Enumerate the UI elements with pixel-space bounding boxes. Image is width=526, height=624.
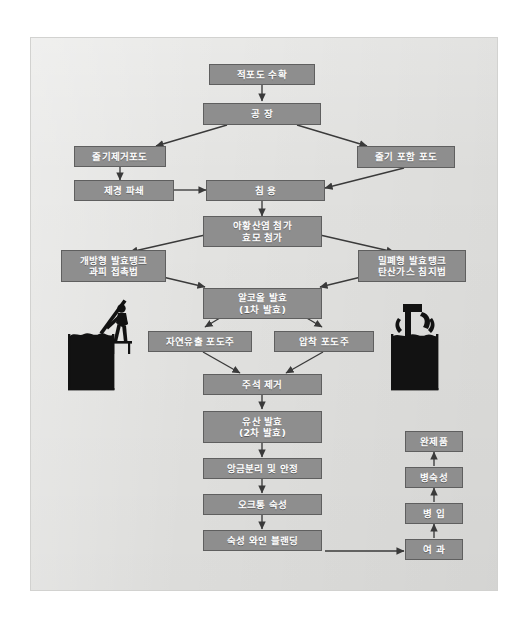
node-sulfite-yeast-addition-line-2: 효모 첨가 bbox=[242, 232, 282, 244]
node-tartrate-removal[interactable]: 주석 제거 bbox=[203, 374, 322, 395]
node-whole-cluster-grapes[interactable]: 줄기 포함 포도 bbox=[357, 146, 455, 168]
node-open-fermentation-tank-line-1: 개방형 발효탱크 bbox=[80, 255, 148, 267]
node-bottling[interactable]: 병 입 bbox=[405, 503, 463, 524]
node-destemmed-grapes[interactable]: 줄기제거포도 bbox=[74, 146, 166, 167]
node-free-run-wine[interactable]: 자연유출 포도주 bbox=[148, 331, 252, 352]
node-destemmed-grapes-line-1: 줄기제거포도 bbox=[92, 151, 147, 163]
node-closed-fermentation-tank-line-2: 탄산가스 침지법 bbox=[378, 266, 446, 278]
node-maceration[interactable]: 침 용 bbox=[206, 180, 325, 201]
node-bottle-aging[interactable]: 병숙성 bbox=[405, 467, 463, 488]
node-press-wine[interactable]: 압착 포도주 bbox=[274, 331, 374, 352]
node-open-fermentation-tank-line-2: 과피 접촉법 bbox=[89, 266, 139, 278]
node-wine-blending[interactable]: 숙성 와인 블랜딩 bbox=[203, 530, 322, 551]
node-sulfite-yeast-addition[interactable]: 아황산염 첨가 효모 첨가 bbox=[203, 216, 322, 247]
node-oak-barrel-aging-line-1: 오크통 숙성 bbox=[238, 499, 288, 511]
node-free-run-wine-line-1: 자연유출 포도주 bbox=[166, 336, 234, 348]
node-bottle-aging-line-1: 병숙성 bbox=[420, 472, 448, 484]
flowchart-canvas: 적포도 수확 공 장 줄기제거포도 줄기 포함 포도 제경 파쇄 침 용 아황산… bbox=[0, 0, 526, 624]
node-sulfite-yeast-addition-line-1: 아황산염 첨가 bbox=[233, 220, 292, 232]
node-winery[interactable]: 공 장 bbox=[203, 103, 321, 125]
node-filtration[interactable]: 여 과 bbox=[405, 539, 463, 560]
node-closed-fermentation-tank[interactable]: 밀폐형 발효탱크 탄산가스 침지법 bbox=[358, 250, 466, 282]
node-wine-blending-line-1: 숙성 와인 블랜딩 bbox=[227, 535, 298, 547]
node-tartrate-removal-line-1: 주석 제거 bbox=[242, 379, 282, 391]
node-bottling-line-1: 병 입 bbox=[423, 508, 445, 520]
node-alcoholic-fermentation-line-2: (1차 발효) bbox=[239, 304, 286, 316]
closed-fermentation-tank-illustration bbox=[389, 296, 475, 392]
node-racking-stabilization[interactable]: 앙금분리 및 안정 bbox=[203, 458, 322, 479]
node-finished-product-line-1: 완제품 bbox=[420, 436, 448, 448]
node-winery-line-1: 공 장 bbox=[251, 108, 273, 120]
node-maceration-line-1: 침 용 bbox=[255, 185, 277, 197]
node-alcoholic-fermentation-line-1: 알코올 발효 bbox=[238, 292, 288, 304]
node-destem-crush-line-1: 제경 파쇄 bbox=[104, 185, 144, 197]
node-open-fermentation-tank[interactable]: 개방형 발효탱크 과피 접촉법 bbox=[61, 250, 166, 282]
node-closed-fermentation-tank-line-1: 밀폐형 발효탱크 bbox=[378, 255, 446, 267]
node-oak-barrel-aging[interactable]: 오크통 숙성 bbox=[203, 494, 322, 515]
node-malolactic-fermentation-line-1: 유산 발효 bbox=[242, 416, 282, 428]
node-finished-product[interactable]: 완제품 bbox=[405, 431, 463, 452]
node-destem-crush[interactable]: 제경 파쇄 bbox=[74, 180, 174, 201]
node-harvest-line-1: 적포도 수확 bbox=[237, 69, 287, 81]
node-whole-cluster-grapes-line-1: 줄기 포함 포도 bbox=[375, 151, 437, 163]
node-alcoholic-fermentation[interactable]: 알코올 발효 (1차 발효) bbox=[203, 288, 322, 319]
open-fermentation-tank-illustration bbox=[66, 296, 152, 392]
node-malolactic-fermentation[interactable]: 유산 발효 (2차 발효) bbox=[203, 411, 322, 443]
node-racking-stabilization-line-1: 앙금분리 및 안정 bbox=[227, 463, 298, 475]
node-filtration-line-1: 여 과 bbox=[423, 544, 445, 556]
node-harvest[interactable]: 적포도 수확 bbox=[209, 64, 315, 85]
node-malolactic-fermentation-line-2: (2차 발효) bbox=[239, 427, 286, 439]
node-press-wine-line-1: 압착 포도주 bbox=[299, 336, 349, 348]
